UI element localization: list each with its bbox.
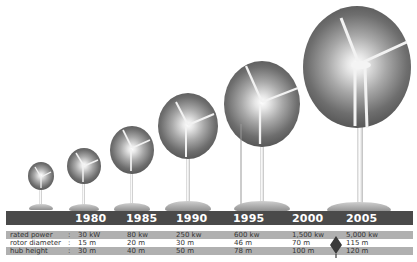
cell-value: 50 m bbox=[176, 247, 194, 255]
wind-turbine-icon bbox=[301, 4, 417, 212]
row-label: rotor diameter bbox=[10, 239, 61, 247]
year-label: 1980 bbox=[75, 211, 106, 225]
cell-value: 70 m bbox=[292, 239, 310, 247]
wind-turbine-icon bbox=[108, 125, 156, 212]
wind-turbine-icon bbox=[64, 146, 104, 212]
year-label: 2005 bbox=[346, 211, 377, 225]
cell-value: 120 m bbox=[346, 247, 368, 255]
year-label: 1995 bbox=[233, 211, 264, 225]
cell-value: 40 m bbox=[127, 247, 145, 255]
year-label: 1985 bbox=[126, 211, 157, 225]
cell-value: 78 m bbox=[234, 247, 252, 255]
cell-value: 15 m bbox=[78, 239, 96, 247]
cell-value: 20 m bbox=[127, 239, 145, 247]
year-label: 1990 bbox=[176, 211, 207, 225]
diamond-marker-icon bbox=[330, 236, 342, 258]
turbine-diagram: 1980 1985 1990 1995 2000 2005 rated powe… bbox=[0, 0, 417, 262]
cell-value: 115 m bbox=[346, 239, 368, 247]
cell-value: 46 m bbox=[234, 239, 252, 247]
row-separator: : bbox=[68, 231, 70, 239]
cell-value: 30 kW bbox=[78, 231, 100, 239]
cell-value: 5,000 kw bbox=[346, 231, 378, 239]
cell-value: 250 kw bbox=[176, 231, 201, 239]
row-label: hub height bbox=[10, 247, 48, 255]
wind-turbine-icon bbox=[222, 60, 302, 212]
cell-value: 100 m bbox=[292, 247, 314, 255]
cell-value: 80 kw bbox=[127, 231, 148, 239]
wind-turbine-icon bbox=[156, 92, 220, 212]
year-label: 2000 bbox=[292, 211, 323, 225]
cell-value: 30 m bbox=[176, 239, 194, 247]
cell-value: 30 m bbox=[78, 247, 96, 255]
cell-value: 1,500 kw bbox=[292, 231, 324, 239]
row-separator: : bbox=[68, 247, 70, 255]
cell-value: 600 kw bbox=[234, 231, 259, 239]
row-separator: : bbox=[68, 239, 70, 247]
wind-turbine-icon bbox=[26, 160, 56, 212]
row-label: rated power bbox=[10, 231, 53, 239]
